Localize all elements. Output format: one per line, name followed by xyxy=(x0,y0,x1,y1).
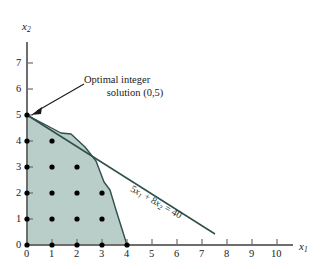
x-tick-label-9: 9 xyxy=(249,248,254,259)
y-tick-label-5: 5 xyxy=(16,109,21,120)
y-tick-label-4: 4 xyxy=(16,135,21,146)
x-tick-label-5: 5 xyxy=(149,248,154,259)
optimal-solution-annotation: Optimal integer solution (0,5) xyxy=(84,74,204,99)
x-tick-label-1: 1 xyxy=(49,248,54,259)
x-tick-label-10: 10 xyxy=(271,248,282,259)
x-tick-label-0: 0 xyxy=(24,248,29,259)
y-tick-label-7: 7 xyxy=(16,57,21,68)
plot-canvas xyxy=(0,0,323,269)
optimal-solution-line2: solution (0,5) xyxy=(84,87,204,100)
feasible-region-shape xyxy=(27,115,127,245)
optimal-solution-line1: Optimal integer xyxy=(84,74,204,87)
x-tick-label-8: 8 xyxy=(224,248,229,259)
y-axis-label: x2 xyxy=(22,20,31,34)
y-tick-label-3: 3 xyxy=(16,161,21,172)
y-tick-label-6: 6 xyxy=(16,83,21,94)
x-tick-label-3: 3 xyxy=(99,248,104,259)
integer-programming-graph: 0 1 2 3 4 5 6 7 8 9 10 0 1 2 3 4 5 6 7 x… xyxy=(0,0,323,269)
x-tick-label-6: 6 xyxy=(174,248,179,259)
x-tick-label-7: 7 xyxy=(199,248,204,259)
y-axis-label-subscript: 2 xyxy=(27,25,31,34)
y-tick-label-1: 1 xyxy=(16,213,21,224)
x-axis-label: x1 xyxy=(299,240,308,254)
optimal-solution-arrow xyxy=(31,84,84,115)
x-axis-label-subscript: 1 xyxy=(304,245,308,254)
x-tick-label-4: 4 xyxy=(124,248,129,259)
y-tick-label-0: 0 xyxy=(16,239,21,250)
x-tick-label-2: 2 xyxy=(74,248,79,259)
y-tick-label-2: 2 xyxy=(16,187,21,198)
